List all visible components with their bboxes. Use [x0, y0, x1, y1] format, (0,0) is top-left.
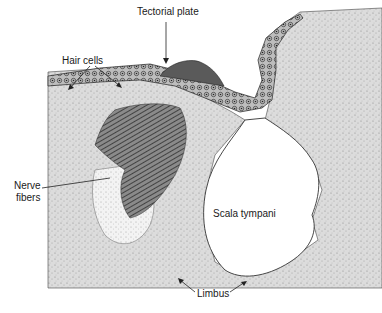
label-scala-tympani: Scala tympani [213, 208, 276, 219]
cochlea-illustration [0, 0, 382, 313]
label-fibers: fibers [16, 192, 40, 203]
label-tectorial-plate: Tectorial plate [137, 6, 199, 17]
label-limbus: Limbus [197, 288, 229, 299]
label-nerve: Nerve [14, 180, 41, 191]
label-hair-cells: Hair cells [62, 55, 103, 66]
